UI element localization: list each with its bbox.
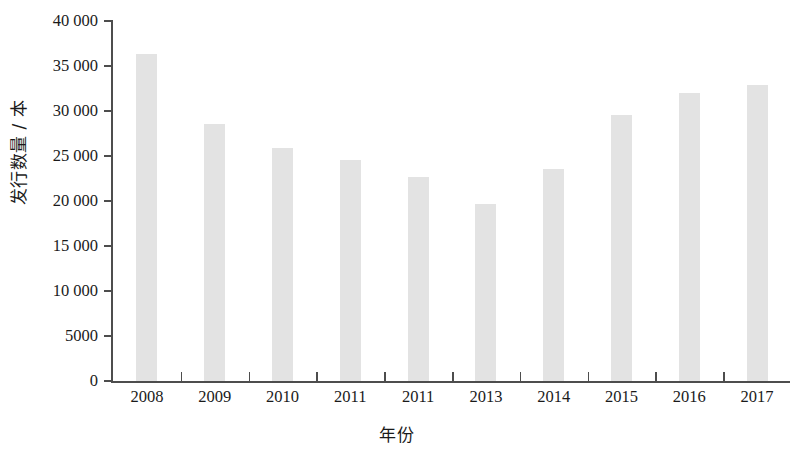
y-axis-tick: [104, 65, 112, 67]
y-axis-tick-label: 0: [0, 373, 98, 390]
x-axis-line: [111, 381, 790, 383]
bar: [204, 124, 225, 381]
x-axis-category-label: 2013: [452, 389, 520, 406]
y-axis-tick-label: 35 000: [0, 58, 98, 75]
x-axis-category-label: 2010: [249, 389, 317, 406]
bar-chart: 发行数量 / 本 0500010 00015 00020 00025 00030…: [0, 0, 793, 449]
y-axis-tick: [104, 200, 112, 202]
x-axis-tick: [316, 372, 318, 382]
x-axis-tick: [723, 372, 725, 382]
bar: [747, 85, 768, 381]
x-axis-tick: [181, 372, 183, 382]
x-axis-category-label: 2014: [520, 389, 588, 406]
y-axis-tick: [104, 245, 112, 247]
bar: [611, 115, 632, 381]
bar: [408, 177, 429, 381]
x-axis-category-label: 2008: [113, 389, 181, 406]
x-axis-category-label: 2016: [655, 389, 723, 406]
y-axis-tick: [104, 380, 112, 382]
bar: [679, 93, 700, 381]
x-axis-category-label: 2011: [316, 389, 384, 406]
bar: [543, 169, 564, 381]
y-axis-tick-label: 25 000: [0, 148, 98, 165]
x-axis-category-label: 2015: [588, 389, 656, 406]
x-axis-tick: [384, 372, 386, 382]
y-axis-tick-label: 5000: [0, 328, 98, 345]
x-axis-tick: [588, 372, 590, 382]
y-axis-tick-label: 20 000: [0, 193, 98, 210]
x-axis-title: 年份: [0, 421, 793, 446]
x-axis-tick: [520, 372, 522, 382]
y-axis-tick-label: 30 000: [0, 103, 98, 120]
y-axis-tick: [104, 335, 112, 337]
y-axis-tick: [104, 155, 112, 157]
bar: [475, 204, 496, 381]
x-axis-category-label: 2017: [723, 389, 791, 406]
x-axis-tick: [452, 372, 454, 382]
y-axis-tick-label: 15 000: [0, 238, 98, 255]
x-axis-category-label: 2011: [384, 389, 452, 406]
y-axis-tick: [104, 20, 112, 22]
y-axis-tick: [104, 290, 112, 292]
x-axis-tick: [655, 372, 657, 382]
bar: [136, 54, 157, 381]
bar: [272, 148, 293, 381]
x-axis-category-label: 2009: [181, 389, 249, 406]
bar: [340, 160, 361, 381]
y-axis-tick-label: 40 000: [0, 13, 98, 30]
y-axis-tick: [104, 110, 112, 112]
y-axis-tick-label: 10 000: [0, 283, 98, 300]
x-axis-tick: [249, 372, 251, 382]
